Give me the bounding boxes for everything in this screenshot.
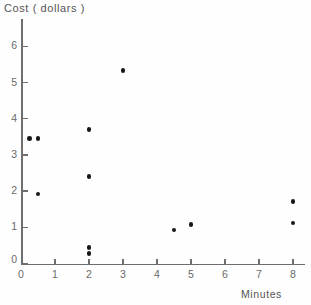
x-tick-label: 0 bbox=[13, 268, 29, 280]
data-point bbox=[121, 68, 126, 73]
x-tick-mark bbox=[258, 259, 259, 264]
data-point bbox=[291, 199, 296, 204]
x-tick-label: 6 bbox=[217, 268, 233, 280]
data-point bbox=[27, 136, 32, 141]
x-tick-mark bbox=[88, 259, 89, 264]
y-tick-label: 3 bbox=[3, 148, 17, 160]
data-point bbox=[87, 245, 92, 250]
data-point bbox=[87, 127, 92, 132]
data-point bbox=[189, 222, 194, 227]
data-point bbox=[172, 228, 177, 233]
x-tick-label: 4 bbox=[149, 268, 165, 280]
y-tick-mark bbox=[23, 227, 28, 228]
x-tick-mark bbox=[292, 259, 293, 264]
x-tick-label: 1 bbox=[47, 268, 63, 280]
x-tick-mark bbox=[156, 259, 157, 264]
data-point bbox=[36, 136, 41, 141]
x-axis-title: Minutes bbox=[241, 288, 282, 300]
y-tick-label: 5 bbox=[3, 76, 17, 88]
y-tick-label: 4 bbox=[3, 112, 17, 124]
x-tick-label: 2 bbox=[81, 268, 97, 280]
data-point bbox=[87, 251, 92, 256]
y-tick-label: 2 bbox=[3, 184, 17, 196]
x-tick-mark bbox=[190, 259, 191, 264]
y-axis-line bbox=[21, 19, 23, 265]
y-tick-mark bbox=[23, 154, 28, 155]
y-tick-mark bbox=[23, 263, 28, 264]
x-tick-label: 7 bbox=[251, 268, 267, 280]
data-point bbox=[36, 192, 41, 197]
x-tick-mark bbox=[224, 259, 225, 264]
x-tick-label: 3 bbox=[115, 268, 131, 280]
data-point bbox=[87, 174, 92, 179]
y-tick-label: 6 bbox=[3, 39, 17, 51]
y-tick-label-zero: 0 bbox=[3, 253, 17, 265]
y-tick-mark bbox=[23, 82, 28, 83]
x-tick-label: 5 bbox=[183, 268, 199, 280]
x-tick-mark bbox=[122, 259, 123, 264]
x-axis-line bbox=[21, 264, 305, 266]
scatter-plot-figure: Cost ( dollars ) Minutes 1234560 0123456… bbox=[0, 0, 311, 305]
y-tick-mark bbox=[23, 46, 28, 47]
data-point bbox=[291, 221, 296, 226]
y-tick-mark bbox=[23, 118, 28, 119]
y-axis-title: Cost ( dollars ) bbox=[4, 2, 85, 14]
x-tick-mark bbox=[54, 259, 55, 264]
y-tick-label: 1 bbox=[3, 220, 17, 232]
y-tick-mark bbox=[23, 190, 28, 191]
x-tick-label: 8 bbox=[285, 268, 301, 280]
